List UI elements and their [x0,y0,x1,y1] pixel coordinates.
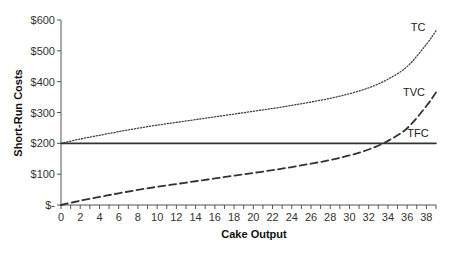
x-tick-label: 0 [58,211,64,223]
y-tick-label: $600 [31,14,55,26]
x-tick-label: 4 [96,211,102,223]
y-tick-label: $- [45,199,55,211]
x-tick-label: 8 [135,211,141,223]
x-tick-label: 22 [266,211,278,223]
x-tick-label: 36 [401,211,413,223]
x-tick-label: 28 [324,211,336,223]
series-group [61,31,436,205]
y-tick-label: $400 [31,76,55,88]
x-tick-label: 38 [420,211,432,223]
tc-curve [61,31,436,144]
y-tick-label: $100 [31,168,55,180]
x-tick-label: 20 [247,211,259,223]
y-tick-label: $500 [31,45,55,57]
tfc-label: TFC [407,127,428,139]
y-axis: $-$100$200$300$400$500$600 [31,14,61,211]
x-tick-label: 34 [382,211,394,223]
x-tick-label: 14 [189,211,201,223]
y-axis-title: Short-Run Costs [12,69,24,156]
x-tick-label: 10 [151,211,163,223]
x-tick-label: 12 [170,211,182,223]
x-tick-label: 26 [305,211,317,223]
x-axis: 02468101214161820222426283032343638 [58,205,436,223]
x-tick-label: 6 [116,211,122,223]
x-tick-label: 24 [286,211,298,223]
y-tick-label: $200 [31,137,55,149]
cost-chart: $-$100$200$300$400$500$600 0246810121416… [0,0,451,253]
x-tick-label: 16 [209,211,221,223]
y-tick-label: $300 [31,107,55,119]
x-tick-label: 2 [77,211,83,223]
x-tick-label: 30 [343,211,355,223]
x-tick-label: 32 [363,211,375,223]
tvc-curve [61,92,436,205]
tc-label: TC [411,21,426,33]
curve-labels: TCTVCTFC [403,21,429,139]
tvc-label: TVC [403,86,425,98]
x-axis-title: Cake Output [221,228,287,240]
x-tick-label: 18 [228,211,240,223]
